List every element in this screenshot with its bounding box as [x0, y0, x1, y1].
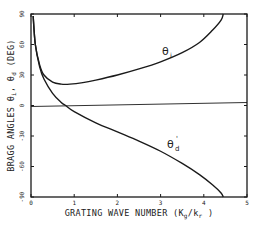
theta-i-subscript: i: [170, 52, 172, 60]
y-tick-label: -60: [18, 161, 25, 172]
x-axis-title-part: GRATING WAVE NUMBER (K: [65, 208, 185, 218]
x-tick-label: 5: [245, 199, 249, 206]
y-tick-label: -30: [18, 130, 25, 141]
x-axis-title-part: ): [203, 208, 214, 218]
y-tick-label: 30: [18, 71, 25, 79]
theta-i-curve: [33, 14, 223, 84]
y-tick-label: 60: [18, 41, 25, 49]
theta-d-subscript: d: [175, 145, 179, 153]
x-tick-label: 1: [72, 199, 76, 206]
y-tick-label: 0: [18, 103, 25, 107]
plot-frame: [31, 14, 247, 197]
theta-d-prime: ': [176, 135, 178, 143]
theta-i-label: θ: [162, 45, 169, 58]
x-axis-title-part: /k: [188, 208, 199, 218]
x-tick-label: 2: [116, 199, 120, 206]
y-axis-title-part: , θ: [6, 76, 16, 92]
bragg-angle-chart: 0123459060300-30-60-90 θiθd' GRATING WAV…: [0, 0, 258, 236]
theta-d-curve: [33, 16, 223, 197]
curve-labels: θiθd': [162, 45, 179, 153]
x-axis-title: GRATING WAVE NUMBER (Kg/kr ): [65, 208, 214, 220]
axis-tick-labels: 0123459060300-30-60-90: [18, 10, 249, 206]
x-tick-label: 0: [29, 199, 33, 206]
y-tick-label: 90: [18, 10, 25, 18]
y-axis-title-part: (DEG): [6, 39, 16, 72]
x-tick-label: 3: [159, 199, 163, 206]
x-tick-label: 4: [202, 199, 206, 206]
y-tick-label: -90: [18, 191, 25, 202]
y-axis-title-part: BRAGG ANGLES θ: [6, 96, 16, 172]
y-axis-title: BRAGG ANGLES θi, θd (DEG): [6, 39, 17, 171]
theta-d-label: θ: [167, 138, 174, 151]
